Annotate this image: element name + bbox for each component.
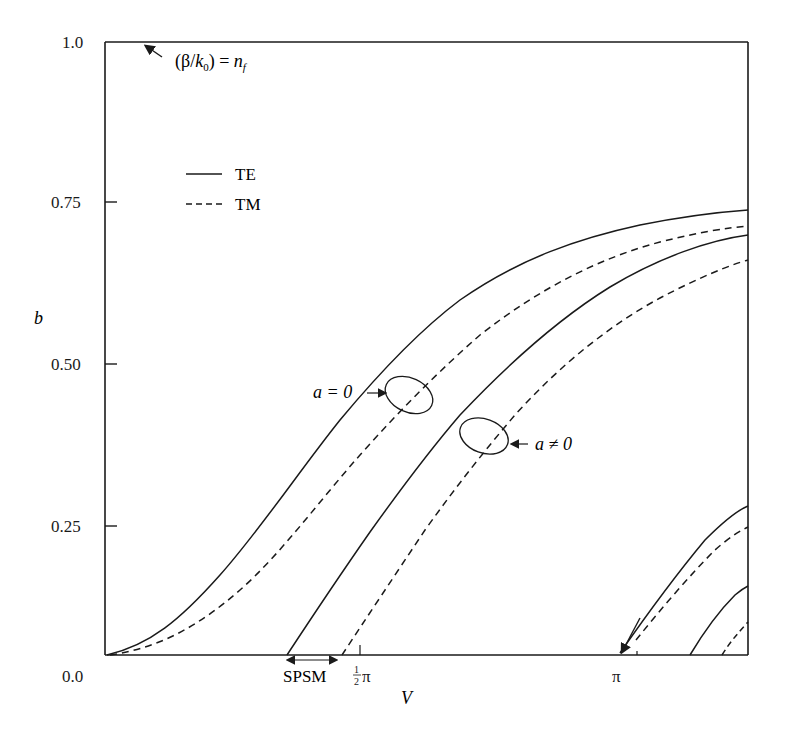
y-tick-label-050: 0.50 (51, 355, 81, 374)
pi-label: π (612, 667, 621, 686)
legend-te-label: TE (235, 165, 256, 184)
curve-tm-aneq0 (342, 260, 748, 655)
y-axis-title: b (34, 308, 43, 328)
annotation-aneq0: a ≠ 0 (455, 411, 572, 460)
chart-canvas: 1.0 0.75 0.50 0.25 0.0 b V 1 2 π π SPSM (0, 0, 786, 734)
x-tick-labels: 1 2 π π (353, 664, 621, 687)
annotation-text: (β/k0) = nf (175, 51, 248, 73)
spsm-span: SPSM (283, 660, 336, 686)
annotation-aneq0-label: a ≠ 0 (535, 434, 572, 454)
pi-cutoff-arrow (622, 618, 640, 652)
curve-te-mode1-a0 (620, 506, 748, 653)
legend: TE TM (186, 165, 261, 214)
curve-te-aneq0 (287, 235, 748, 655)
x-axis-title: V (401, 688, 414, 708)
annotation-a0: a = 0 (313, 369, 439, 421)
y-tick-label-100: 1.0 (62, 33, 83, 52)
y-tick-label-075: 0.75 (51, 193, 81, 212)
y-tick-label-025: 0.25 (51, 517, 81, 536)
curve-tm-mode1-a0 (636, 527, 748, 640)
x-ticks (360, 645, 637, 655)
annotation-a0-label: a = 0 (313, 382, 352, 402)
y-ticks (105, 202, 117, 526)
annotation-arrow (146, 46, 162, 57)
half-pi-symbol: π (362, 667, 371, 686)
annotation-a0-ellipse (379, 369, 439, 421)
spsm-label: SPSM (283, 667, 326, 686)
y-tick-label-0: 0.0 (62, 667, 83, 686)
curve-te-a0 (107, 210, 748, 655)
curve-te-mode1-aneq0 (690, 586, 748, 655)
half-pi-numerator: 1 (354, 664, 359, 675)
curve-tm-mode1-aneq0 (722, 622, 748, 655)
y-tick-labels: 1.0 0.75 0.50 0.25 0.0 (51, 33, 83, 686)
annotation-aneq0-ellipse (455, 411, 514, 460)
plot-frame (105, 42, 748, 655)
legend-tm-label: TM (235, 195, 261, 214)
curves (107, 210, 748, 655)
annotation-beta-nf: (β/k0) = nf (146, 46, 248, 73)
half-pi-denominator: 2 (354, 676, 359, 687)
